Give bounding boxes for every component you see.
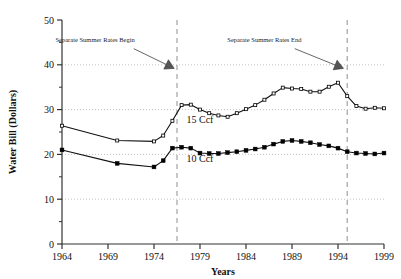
data-point <box>189 146 193 150</box>
data-point <box>162 134 165 137</box>
x-tick-label-1974: 1974 <box>144 251 164 262</box>
x-tick-label-1989: 1989 <box>282 251 302 262</box>
x-tick-label-1964: 1964 <box>52 251 72 262</box>
data-point <box>263 145 267 149</box>
data-point <box>309 141 313 145</box>
data-point <box>318 143 322 147</box>
data-point <box>180 145 184 149</box>
y-tick-label-0: 0 <box>49 239 54 250</box>
data-point <box>171 146 175 150</box>
data-point <box>253 147 257 151</box>
data-point <box>336 146 340 150</box>
series-line <box>62 83 384 142</box>
data-point <box>364 107 367 110</box>
data-point <box>226 151 230 155</box>
data-point <box>217 152 221 156</box>
water-bill-line-chart: 0102030405019641969197419791984198919941… <box>0 0 401 279</box>
x-axis-title: Years <box>211 266 235 277</box>
data-point <box>244 148 248 152</box>
series-label-15-ccf: 15 Ccf <box>187 114 215 125</box>
data-point <box>355 105 358 108</box>
series-15-ccf <box>61 81 386 143</box>
series-10-ccf <box>60 139 386 169</box>
y-tick-label-30: 30 <box>44 104 54 115</box>
x-tick-label-1979: 1979 <box>190 251 210 262</box>
data-point <box>272 142 276 146</box>
y-tick-label-40: 40 <box>44 59 54 70</box>
data-point <box>263 98 266 101</box>
data-point <box>189 103 192 106</box>
x-tick-label-1969: 1969 <box>98 251 118 262</box>
data-point <box>373 106 376 109</box>
annotation-text: Separate Summer Rates Begin <box>55 36 135 43</box>
data-point <box>327 144 331 148</box>
data-point <box>226 115 229 118</box>
data-point <box>153 140 156 143</box>
data-point <box>346 95 349 98</box>
y-tick-label-10: 10 <box>44 194 54 205</box>
data-point <box>161 159 165 163</box>
data-point <box>300 87 303 90</box>
data-point <box>290 139 294 143</box>
data-point <box>291 87 294 90</box>
annotation-arrow-line <box>134 49 166 65</box>
data-point <box>272 92 275 95</box>
data-point <box>355 151 359 155</box>
y-tick-label-20: 20 <box>44 149 54 160</box>
x-tick-label-1999: 1999 <box>374 251 394 262</box>
data-point <box>281 140 285 144</box>
annotation-text: Separate Summer Rates End <box>227 36 302 43</box>
series-line <box>62 141 384 167</box>
data-point <box>364 152 368 156</box>
data-point <box>152 165 156 169</box>
y-axis-title: Water Bill (Dollars) <box>7 90 19 174</box>
data-point <box>254 104 257 107</box>
annotation-1: Separate Summer Rates Begin <box>55 36 174 70</box>
data-point <box>373 152 377 156</box>
data-point <box>245 108 248 111</box>
x-tick-label-1984: 1984 <box>236 251 256 262</box>
data-point <box>61 124 64 127</box>
data-point <box>383 107 386 110</box>
data-point <box>180 104 183 107</box>
series-label-10-ccf: 10 Ccf <box>187 153 215 164</box>
data-point <box>235 112 238 115</box>
data-point <box>115 161 119 165</box>
data-point <box>337 81 340 84</box>
chart-container: 0102030405019641969197419791984198919941… <box>0 0 401 279</box>
x-tick-label-1994: 1994 <box>328 251 348 262</box>
data-point <box>217 114 220 117</box>
data-point <box>281 86 284 89</box>
data-point <box>60 148 64 152</box>
annotation-arrow-line <box>295 49 335 65</box>
data-point <box>199 108 202 111</box>
data-point <box>299 140 303 144</box>
data-point <box>345 150 349 154</box>
data-point <box>235 150 239 154</box>
y-tick-label-50: 50 <box>44 15 54 26</box>
data-point <box>171 119 174 122</box>
data-point <box>382 151 386 155</box>
data-point <box>116 139 119 142</box>
data-point <box>318 90 321 93</box>
data-point <box>327 85 330 88</box>
data-point <box>309 90 312 93</box>
